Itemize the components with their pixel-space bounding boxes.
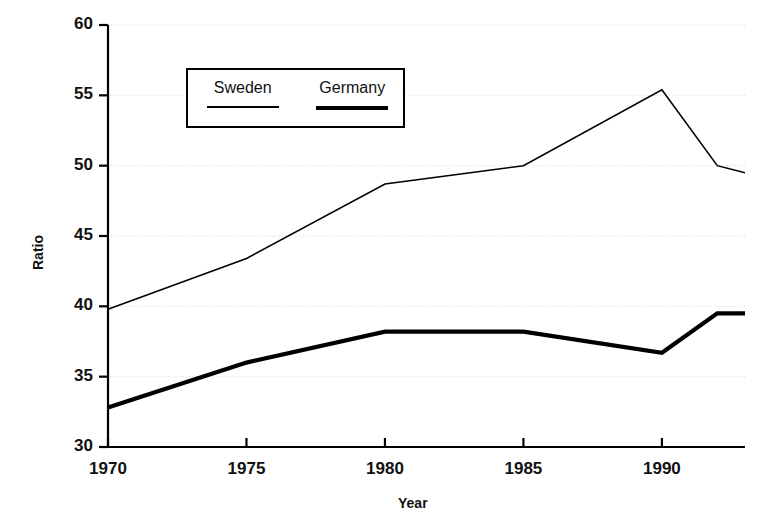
- y-tick-label: 55: [53, 84, 93, 104]
- y-tick-label: 35: [53, 366, 93, 386]
- x-tick-label: 1985: [488, 459, 558, 479]
- legend: SwedenGermany: [186, 68, 405, 128]
- y-tick-label: 50: [53, 155, 93, 175]
- line-chart: 30354045505560 19701975198019851990 Rati…: [0, 0, 761, 529]
- legend-label: Germany: [298, 79, 408, 97]
- y-tick-label: 45: [53, 225, 93, 245]
- series-line-germany: [108, 313, 745, 407]
- legend-label: Sweden: [188, 79, 298, 97]
- legend-item-germany: Germany: [298, 79, 408, 110]
- y-tick-label: 40: [53, 295, 93, 315]
- x-axis-title: Year: [398, 495, 428, 511]
- legend-line-swatch: [207, 106, 279, 108]
- data-series: [108, 90, 745, 408]
- x-tick-label: 1975: [211, 459, 281, 479]
- x-tick-label: 1970: [73, 459, 143, 479]
- y-axis-title: Ratio: [30, 235, 46, 270]
- legend-item-sweden: Sweden: [188, 79, 298, 108]
- x-tick-label: 1980: [350, 459, 420, 479]
- y-tick-label: 30: [53, 436, 93, 456]
- legend-line-swatch: [316, 106, 388, 110]
- y-tick-label: 60: [53, 14, 93, 34]
- x-tick-label: 1990: [627, 459, 697, 479]
